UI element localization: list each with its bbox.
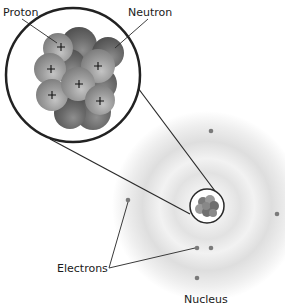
electrons-label: Electrons — [57, 263, 108, 274]
electron — [195, 246, 200, 251]
electron — [126, 198, 131, 203]
electron — [209, 246, 214, 251]
electron — [195, 276, 200, 281]
proton-label: Proton — [3, 7, 38, 18]
nucleus-label: Nucleus — [184, 294, 228, 305]
magnified-nucleus — [6, 8, 140, 142]
electron — [209, 129, 214, 134]
nucleus — [190, 189, 224, 223]
electron — [275, 212, 280, 217]
neutron-label: Neutron — [128, 7, 172, 18]
